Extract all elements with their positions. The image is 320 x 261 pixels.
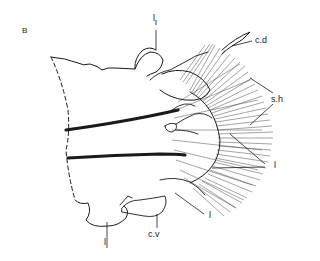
leader-cd bbox=[232, 41, 252, 46]
leader-l-lower bbox=[175, 193, 204, 214]
label-cd: c.d bbox=[255, 36, 267, 45]
leader-l-right-2 bbox=[212, 167, 265, 168]
panel-label: B bbox=[22, 27, 27, 35]
leader-sh-1 bbox=[250, 78, 273, 93]
setae-fan bbox=[172, 44, 273, 216]
top-lobe bbox=[135, 52, 163, 76]
central-lobe bbox=[165, 123, 177, 132]
label-l-right: l bbox=[274, 161, 276, 170]
label-l-bottom: l bbox=[104, 238, 106, 247]
upper-lobe bbox=[160, 70, 210, 100]
lower-thick-line bbox=[68, 154, 185, 158]
cv-structure bbox=[122, 196, 166, 217]
label-l-lower: l bbox=[209, 211, 211, 220]
bottom-outline bbox=[75, 200, 128, 226]
label-cv: c.v bbox=[148, 230, 160, 239]
label-sh: s.h bbox=[271, 95, 283, 104]
leader-sh-2 bbox=[250, 104, 273, 125]
label-l-top: l bbox=[153, 14, 155, 23]
cd-hook bbox=[222, 32, 250, 54]
upper-thick-line bbox=[66, 110, 178, 130]
